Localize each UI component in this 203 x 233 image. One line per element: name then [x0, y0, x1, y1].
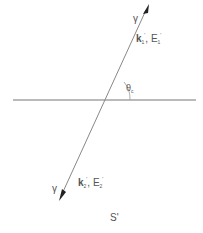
gamma-label-bottom: γ — [52, 184, 57, 194]
E-symbol: E — [93, 177, 100, 188]
frame-label: S' — [110, 213, 119, 223]
k-subscript: 2 — [84, 183, 87, 189]
E-symbol: E — [151, 33, 158, 44]
wave-label-top: k1', E1' — [136, 33, 161, 45]
k-subscript: 1 — [142, 39, 145, 45]
E-subscript: 1 — [158, 39, 161, 45]
photon-ray — [62, 10, 146, 194]
E-subscript: 2 — [100, 183, 103, 189]
wave-label-bottom: k2', E2' — [78, 177, 103, 189]
E-prime: ' — [102, 176, 103, 182]
theta-subscript: c — [131, 88, 134, 94]
angle-label: θc — [126, 84, 134, 94]
arrowhead-down-icon — [59, 189, 66, 201]
arrowhead-up-icon — [143, 4, 149, 14]
gamma-label-top: γ — [133, 14, 138, 24]
E-prime: ' — [160, 32, 161, 38]
diagram-canvas — [0, 0, 203, 233]
